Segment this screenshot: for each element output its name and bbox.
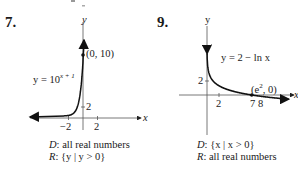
equation-label: y = 10x + 1 [33, 70, 75, 86]
y-tick-label-2: 2 [86, 101, 91, 113]
point-suffix: , 0) [263, 84, 277, 95]
point-prefix: (e [251, 84, 259, 95]
range-value: : {y | y > 0} [55, 151, 105, 162]
problem-7-panel: 7. y x (0, 10) y = 10x + 1 2 −2 2 D: all… [0, 0, 149, 169]
y-tick-label-2: 2 [198, 75, 203, 87]
x-axis-label: x [294, 89, 298, 101]
equation-exponent: x + 1 [60, 72, 75, 80]
point-label: (0, 10) [86, 48, 114, 60]
equation-label: y = 2 − ln x [221, 52, 270, 64]
range-text: R: {y | y > 0} [49, 151, 105, 163]
domain-key: D [197, 139, 205, 150]
domain-key: D [49, 139, 57, 150]
equation-base: y = 10 [33, 74, 60, 85]
x-tick-label-2: 2 [94, 121, 99, 133]
x-tick-label-2: 2 [216, 98, 221, 110]
x-axis-label: x [143, 112, 148, 124]
domain-value: : {x | x > 0} [205, 139, 255, 150]
y-axis-label: y [205, 14, 210, 26]
x-tick-label-neg2: −2 [60, 121, 71, 133]
point-0-10 [81, 53, 85, 57]
domain-text: D: all real numbers [49, 139, 130, 151]
x-tick-label-7-8: 7 8 [250, 98, 263, 110]
range-value: : all real numbers [203, 151, 276, 162]
domain-value: : all real numbers [57, 139, 130, 150]
curve-left-arrow [30, 116, 64, 117]
domain-text: D: {x | x > 0} [197, 139, 255, 151]
point-label: (e2, 0) [251, 80, 277, 96]
problem-9-panel: 9. y x y = 2 − ln x (e2, 0) 2 2 7 8 D: {… [149, 0, 298, 169]
y-axis-label: y [82, 14, 87, 26]
range-text: R: all real numbers [197, 151, 277, 163]
